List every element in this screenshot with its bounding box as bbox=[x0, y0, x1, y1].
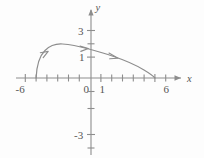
curve-path bbox=[36, 44, 155, 78]
y-tick-label-minus3: -3 bbox=[74, 129, 84, 141]
x-axis-arrowhead-icon bbox=[175, 75, 182, 80]
x-tick-label-1: 1 bbox=[100, 83, 106, 95]
y-axis-arrowhead-icon bbox=[88, 9, 93, 16]
x-tick-label-6: 6 bbox=[164, 83, 170, 95]
graph-figure: -6 0 1 6 x 3 1 -3 y bbox=[0, 0, 204, 158]
y-tick-label-1: 1 bbox=[79, 51, 85, 63]
coordinate-plane: -6 0 1 6 x 3 1 -3 y bbox=[0, 0, 204, 158]
y-axis-name-label: y bbox=[95, 2, 101, 13]
x-tick-label-minus6: -6 bbox=[16, 83, 26, 95]
y-tick-label-3: 3 bbox=[78, 25, 84, 37]
origin-label: 0 bbox=[84, 83, 90, 95]
plotted-curve bbox=[36, 44, 155, 78]
x-axis-name-label: x bbox=[186, 73, 192, 84]
x-axis: -6 0 1 6 x bbox=[16, 73, 193, 96]
